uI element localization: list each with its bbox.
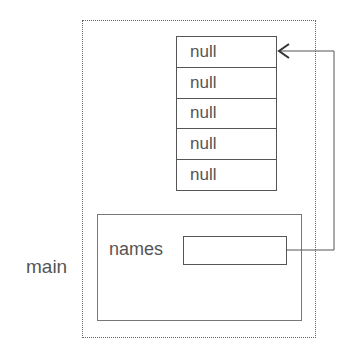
reference-arrow	[0, 0, 353, 359]
